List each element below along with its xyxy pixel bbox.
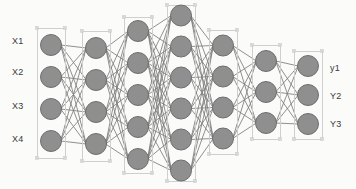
neuron-node[interactable] [128,117,149,138]
selection-handle[interactable] [109,160,112,163]
neuron-node[interactable] [171,5,192,26]
selection-handle[interactable] [64,27,67,30]
selection-handle[interactable] [251,44,254,47]
selection-handle[interactable] [64,157,67,160]
selection-handle[interactable] [293,50,296,53]
layer-group-box[interactable] [168,6,196,182]
neuron-node[interactable] [41,131,62,152]
network-canvas [0,0,356,189]
selection-handle[interactable] [151,172,154,175]
selection-handle[interactable] [208,153,211,156]
selection-handle[interactable] [251,138,254,141]
neuron-node[interactable] [171,129,192,150]
selection-handle[interactable] [279,44,282,47]
neuron-node[interactable] [86,134,107,155]
neuron-node[interactable] [298,85,319,106]
neuron-node[interactable] [128,149,149,170]
selection-handle[interactable] [236,153,239,156]
selection-handle[interactable] [236,29,239,32]
selection-handle[interactable] [81,30,84,33]
output-label-3: Y3 [330,120,341,129]
neuron-node[interactable] [256,113,277,134]
neuron-node[interactable] [128,21,149,42]
neuron-node[interactable] [171,98,192,119]
input-label-1: X1 [12,37,23,46]
neuron-node[interactable] [86,70,107,91]
selection-handle[interactable] [293,138,296,141]
selection-handle[interactable] [279,138,282,141]
neuron-node[interactable] [86,38,107,59]
input-label-3: X3 [12,102,23,111]
neuron-node[interactable] [41,67,62,88]
neuron-node[interactable] [213,66,234,87]
selection-handle[interactable] [194,180,197,183]
neuron-node[interactable] [213,97,234,118]
output-label-1: y1 [330,64,340,73]
neural-network-figure: X1X2X3X4y1Y2Y3 [0,0,356,189]
neuron-node[interactable] [41,99,62,120]
selection-handle[interactable] [123,16,126,19]
selection-handle[interactable] [81,160,84,163]
neuron-node[interactable] [41,35,62,56]
selection-handle[interactable] [151,16,154,19]
selection-handle[interactable] [166,4,169,7]
selection-handle[interactable] [123,172,126,175]
neuron-node[interactable] [86,102,107,123]
selection-handle[interactable] [321,138,324,141]
neuron-node[interactable] [213,128,234,149]
output-label-2: Y2 [330,92,341,101]
neuron-node[interactable] [256,51,277,72]
neuron-node[interactable] [298,56,319,77]
selection-handle[interactable] [36,157,39,160]
input-label-2: X2 [12,68,23,77]
selection-handle[interactable] [208,29,211,32]
selection-handle[interactable] [166,180,169,183]
neuron-node[interactable] [256,82,277,103]
neuron-node[interactable] [171,160,192,181]
neuron-node[interactable] [128,53,149,74]
selection-handle[interactable] [194,4,197,7]
selection-handle[interactable] [36,27,39,30]
neuron-node[interactable] [298,114,319,135]
selection-handle[interactable] [109,30,112,33]
input-label-4: X4 [12,135,23,144]
neuron-node[interactable] [128,85,149,106]
neuron-node[interactable] [171,36,192,57]
neuron-node[interactable] [213,35,234,56]
neuron-node[interactable] [171,67,192,88]
selection-handle[interactable] [321,50,324,53]
